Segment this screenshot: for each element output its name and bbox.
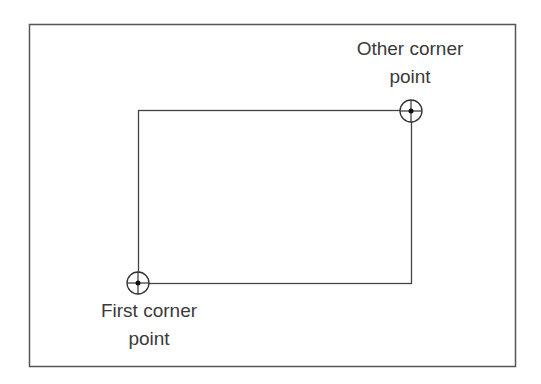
rectangle-diagram: Other corner point First corner point <box>0 0 541 384</box>
other-corner-label-line2: point <box>389 66 431 87</box>
other-corner-label-line1: Other corner <box>357 38 464 59</box>
first-corner-label-line1: First corner <box>101 300 198 321</box>
drawn-rectangle <box>139 111 412 284</box>
first-corner-label-line2: point <box>128 328 170 349</box>
first-corner-marker-icon <box>127 272 149 294</box>
other-corner-marker-icon <box>400 100 422 122</box>
